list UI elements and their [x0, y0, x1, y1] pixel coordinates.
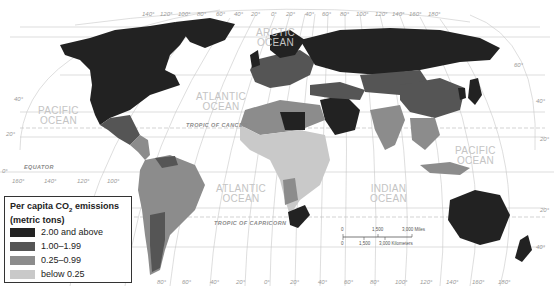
lat-right-20n: 20° — [540, 136, 549, 142]
japan — [468, 78, 482, 105]
lon-top-20w: 20° — [251, 11, 260, 17]
legend-item: 0.25–0.99 — [10, 254, 126, 267]
pacific-ocean-east-label: PACIFIC OCEAN — [455, 146, 496, 166]
lon-top-180: 180° — [428, 11, 440, 17]
arctic-ocean-label: ARCTIC OCEAN — [256, 28, 295, 48]
lon-top-60w: 60° — [216, 11, 225, 17]
legend-title-suffix: emissions — [72, 201, 119, 211]
ocean-label-line: OCEAN — [455, 156, 496, 166]
uk — [250, 50, 260, 68]
north-america — [60, 22, 190, 125]
legend-label: 2.00 and above — [41, 227, 103, 237]
legend-title-prefix: Per capita CO — [10, 201, 69, 211]
ocean-label-line: OCEAN — [370, 194, 407, 204]
lon-bottom-0: 0° — [264, 279, 270, 285]
lon-bottom-20w: 20° — [236, 279, 245, 285]
ocean-label-line: OCEAN — [196, 102, 246, 112]
legend-label: below 0.25 — [41, 269, 85, 279]
legend-label: 0.25–0.99 — [41, 255, 81, 265]
lon-top-120w: 120° — [160, 11, 172, 17]
lon-top-80e: 80° — [340, 11, 349, 17]
scale-miles-end: 3,000 Miles — [402, 227, 425, 232]
ocean-label-line: OCEAN — [256, 38, 295, 48]
turkey-iran — [310, 82, 365, 100]
australia — [448, 190, 510, 245]
argentina-chile — [150, 212, 165, 272]
lon-bottom-40e: 40° — [318, 279, 327, 285]
lon-bottom-80w: 80° — [157, 279, 166, 285]
lon-bottom-40w: 40° — [210, 279, 219, 285]
lon-bottom-120w: 120° — [77, 178, 89, 184]
lon-bottom-120e: 120° — [420, 279, 432, 285]
south-america — [138, 155, 205, 275]
lon-top-60e: 60° — [322, 11, 331, 17]
scale-bar: 0 1,500 3,000 Miles 0 1,500 3,000 Kilome… — [340, 226, 420, 248]
lon-top-40w: 40° — [234, 11, 243, 17]
legend: Per capita CO2 emissions (metric tons) 2… — [4, 196, 132, 283]
scale-km-end: 3,000 Kilometers — [379, 241, 413, 246]
legend-item: below 0.25 — [10, 268, 126, 281]
india — [370, 105, 405, 150]
legend-title: Per capita CO2 emissions — [10, 201, 126, 215]
lon-top-100w: 100° — [178, 11, 190, 17]
lat-right-20s: 20° — [540, 207, 549, 213]
lon-bottom-100e: 100° — [395, 279, 407, 285]
lon-top-0: 0° — [271, 11, 277, 17]
russia — [300, 28, 500, 75]
greenland — [175, 18, 235, 48]
scale-km-mid: 1,500 — [359, 241, 370, 246]
lon-top-80w: 80° — [197, 11, 206, 17]
atlantic-ocean-north-label: ATLANTIC OCEAN — [196, 92, 246, 112]
lat-right-40s: 40° — [536, 244, 545, 250]
atlantic-ocean-south-label: ATLANTIC OCEAN — [216, 184, 266, 204]
new-zealand — [515, 235, 532, 262]
legend-swatch-low — [10, 270, 35, 279]
lon-bottom-80e: 80° — [370, 279, 379, 285]
ocean-label-line: OCEAN — [216, 194, 266, 204]
lon-bottom-60w: 60° — [182, 279, 191, 285]
lon-bottom-140e: 140° — [446, 279, 458, 285]
lon-bottom-20e: 20° — [290, 279, 299, 285]
ocean-label-line: OCEAN — [38, 116, 79, 126]
lon-bottom-140w: 140° — [44, 178, 56, 184]
tropic-of-capricorn-label: TROPIC OF CAPRICORN — [214, 220, 286, 226]
lat-left-0: 0° — [2, 168, 8, 174]
scale-miles-zero: 0 — [341, 227, 344, 232]
tropic-of-cancer-label: TROPIC OF CANCER — [186, 122, 247, 128]
scale-km-zero: 0 — [341, 241, 344, 246]
lat-left-20n: 20° — [6, 131, 15, 137]
lon-top-160e: 160° — [409, 11, 421, 17]
lon-bottom-160e: 160° — [472, 279, 484, 285]
lon-top-140e: 140° — [392, 11, 404, 17]
lon-top-140w: 140° — [142, 11, 154, 17]
legend-label: 1.00–1.99 — [41, 241, 81, 251]
legend-swatch-high — [10, 228, 35, 237]
lat-right-60n: 60° — [514, 62, 523, 68]
lon-bottom-180: 180° — [498, 279, 510, 285]
pacific-ocean-west-label: PACIFIC OCEAN — [38, 106, 79, 126]
legend-swatch-mid-high — [10, 242, 35, 251]
equator-label: EQUATOR — [24, 164, 54, 170]
lat-left-40n: 40° — [14, 96, 23, 102]
scale-miles-mid: 1,500 — [372, 227, 383, 232]
lon-bottom-160w: 160° — [12, 178, 24, 184]
lat-right-40n: 40° — [536, 98, 545, 104]
legend-item: 2.00 and above — [10, 226, 126, 239]
middle-east — [320, 95, 360, 135]
lon-top-40e: 40° — [305, 11, 314, 17]
lon-top-20e: 20° — [286, 11, 295, 17]
indian-ocean-label: INDIAN OCEAN — [370, 184, 407, 204]
legend-subtitle: (metric tons) — [10, 215, 126, 225]
lon-top-100e: 100° — [356, 11, 368, 17]
lon-bottom-100w: 100° — [107, 178, 119, 184]
legend-item: 1.00–1.99 — [10, 240, 126, 253]
legend-swatch-mid-low — [10, 256, 35, 265]
lon-top-120e: 120° — [375, 11, 387, 17]
southeast-asia — [410, 118, 440, 150]
lon-bottom-60e: 60° — [344, 279, 353, 285]
